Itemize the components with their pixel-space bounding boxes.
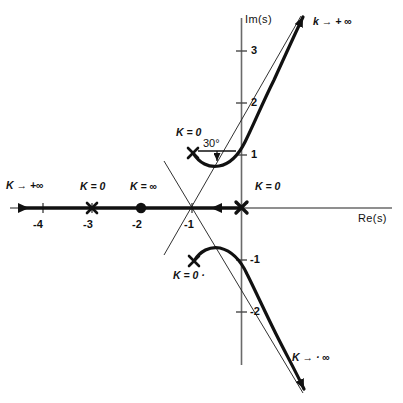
- gain-label-zero-minus2: K = ∞: [130, 181, 157, 192]
- gain-label-pole-minus3: K = 0: [80, 181, 105, 192]
- gain-label-lower-right-infinity: K → · ∞: [292, 352, 330, 363]
- tick-label-im--2: -2: [250, 306, 260, 317]
- gain-label-upper-right-infinity: k → + ∞: [313, 16, 352, 27]
- tick-label-re--3: -3: [83, 219, 93, 230]
- gain-label-upper-complex-pole: K = 0: [176, 127, 201, 138]
- zero-marker-minus2: [136, 203, 146, 213]
- tick-label-re--4: -4: [33, 219, 43, 230]
- pole-marker-lower-complex: [189, 256, 199, 266]
- gain-label-left-infinity: K → +∞: [6, 180, 44, 191]
- tick-label-im-3: 3: [251, 45, 257, 56]
- tick-label-im--1: -1: [250, 254, 260, 265]
- real-locus-direction-arrow: [211, 203, 222, 213]
- root-locus-figure: Im(s) Re(s) 3 2 1 -1 -2 -4 -3 -2 -1 K → …: [0, 0, 403, 403]
- gain-label-lower-complex-pole: K = 0 ·: [173, 270, 205, 281]
- imag-axis-label: Im(s): [245, 14, 272, 25]
- real-axis-label: Re(s): [358, 213, 387, 224]
- plot-canvas: [0, 0, 403, 403]
- axis-lines: [10, 18, 392, 365]
- angle-label-30deg: 30°: [203, 138, 220, 149]
- tick-label-im-2: 2: [251, 97, 257, 108]
- real-axis-locus: [18, 203, 241, 213]
- asymptote-lines: [164, 16, 303, 393]
- gain-label-origin-pole: K = 0: [255, 181, 280, 192]
- pole-marker-upper-complex: [188, 148, 198, 158]
- tick-label-re--1: -1: [184, 219, 194, 230]
- tick-label-im-1: 1: [251, 149, 257, 160]
- tick-label-re--2: -2: [132, 219, 142, 230]
